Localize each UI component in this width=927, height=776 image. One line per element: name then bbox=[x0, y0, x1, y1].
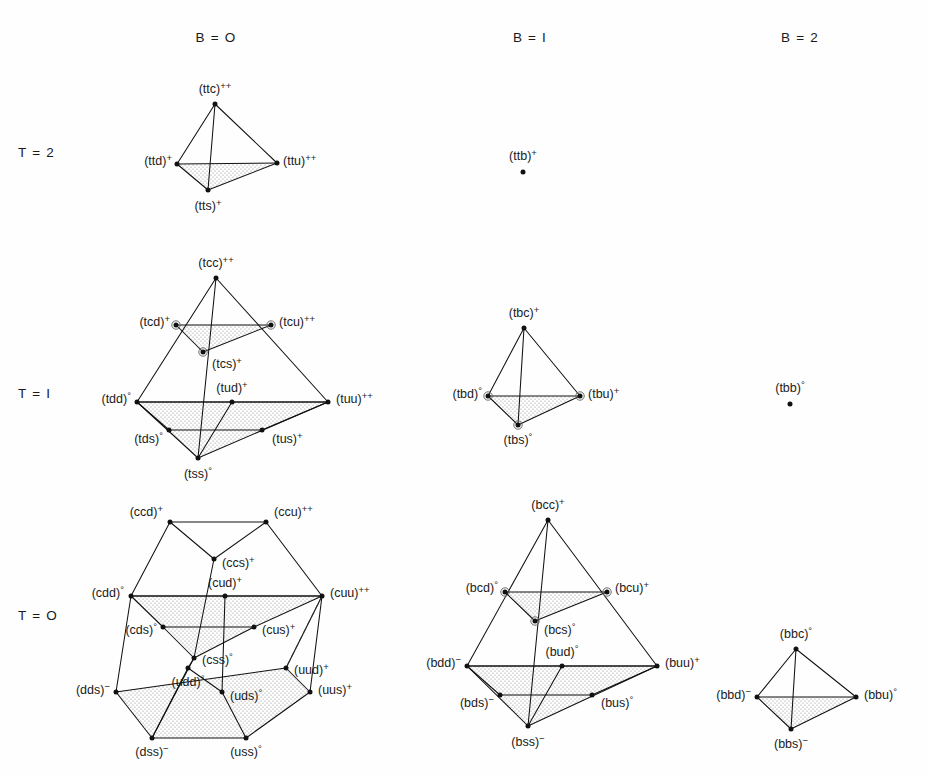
charge-superscript-tdd: ° bbox=[127, 390, 131, 401]
particle-name-uus: (uus) bbox=[318, 683, 346, 697]
vertex-tds bbox=[167, 428, 172, 433]
vertex-label-bbs: (bbs)− bbox=[774, 735, 808, 752]
particle-name-ccu: (ccu) bbox=[274, 505, 302, 519]
charge-superscript-bdd: − bbox=[455, 654, 461, 665]
vertex-ccu bbox=[264, 520, 269, 525]
particle-name-bud: (bud) bbox=[546, 645, 575, 659]
vertex-label-ccd: (ccd)+ bbox=[130, 503, 164, 520]
row-header-t0: T = O bbox=[18, 608, 58, 623]
particle-name-tdd: (tdd) bbox=[101, 392, 127, 406]
column-header-b2: B = 2 bbox=[781, 30, 819, 45]
charge-superscript-tus: + bbox=[297, 430, 303, 441]
charge-superscript-ttb: + bbox=[531, 147, 537, 158]
row-header-t2: T = 2 bbox=[18, 145, 55, 160]
vertex-label-tcd: (tcd)+ bbox=[139, 313, 170, 330]
vertex-tss bbox=[196, 456, 201, 461]
charge-superscript-bbc: ° bbox=[808, 625, 812, 636]
vertex-label-tcs: (tcs)+ bbox=[212, 355, 242, 372]
vertex-tdd bbox=[135, 400, 140, 405]
t2-b0-tetrahedron: (ttc)++(ttd)+(ttu)++(tts)+ bbox=[144, 80, 317, 214]
vertex-bds bbox=[498, 693, 503, 698]
charge-superscript-bds: − bbox=[488, 694, 494, 705]
charge-superscript-ccd: + bbox=[157, 503, 163, 514]
particle-name-cdd: (cdd) bbox=[92, 586, 120, 600]
edge-ccu-ccs bbox=[214, 522, 266, 559]
vertex-tts bbox=[206, 188, 211, 193]
edge-bbc-bbu bbox=[796, 649, 856, 697]
vertex-label-tss: (tss)° bbox=[184, 465, 212, 482]
vertex-uud bbox=[284, 666, 289, 671]
particle-name-tbd: (tbd) bbox=[452, 387, 478, 401]
edge-bbc-bbd bbox=[757, 649, 796, 697]
vertex-bss bbox=[526, 724, 531, 729]
vertex-tbc bbox=[522, 326, 527, 331]
vertex-uds bbox=[220, 690, 225, 695]
vertex-bud bbox=[560, 664, 565, 669]
vertex-label-bcd: (bcd)° bbox=[466, 579, 498, 596]
particle-name-cus: (cus) bbox=[262, 623, 290, 637]
vertex-bcd bbox=[503, 590, 508, 595]
particle-name-bdd: (bdd) bbox=[426, 656, 455, 670]
charge-superscript-dss: − bbox=[163, 743, 169, 754]
vertex-uss bbox=[244, 736, 249, 741]
vertex-bcc bbox=[546, 518, 551, 523]
shaded-face-0 bbox=[757, 697, 856, 729]
particle-name-ccs: (ccs) bbox=[222, 556, 249, 570]
vertex-bdd bbox=[465, 664, 470, 669]
charge-superscript-css: ° bbox=[229, 651, 233, 662]
vertex-label-bbc: (bbc)° bbox=[780, 625, 812, 642]
charge-superscript-cud: + bbox=[236, 574, 242, 585]
vertex-label-tts: (tts)+ bbox=[194, 197, 222, 214]
vertex-ttb bbox=[521, 170, 526, 175]
vertex-udd bbox=[186, 666, 191, 671]
charge-superscript-tcu: ++ bbox=[304, 313, 316, 324]
vertex-label-bbu: (bbu)° bbox=[864, 686, 897, 703]
vertex-label-tud: (tud)+ bbox=[216, 379, 248, 396]
particle-name-bcd: (bcd) bbox=[466, 581, 494, 595]
edge-cdd-dds bbox=[116, 596, 131, 692]
particle-name-tud: (tud) bbox=[216, 381, 242, 395]
headers-layer: B = OB = IB = 2T = 2T = IT = O bbox=[18, 30, 819, 623]
charge-superscript-uud: + bbox=[323, 661, 329, 672]
vertex-label-uss: (uss)° bbox=[230, 743, 262, 760]
vertex-ccd bbox=[168, 520, 173, 525]
particle-name-tts: (tts) bbox=[194, 199, 216, 213]
vertex-label-ccu: (ccu)++ bbox=[274, 503, 313, 520]
t2-b1-single-point: (ttb)+ bbox=[509, 147, 537, 175]
vertex-label-uds: (uds)° bbox=[230, 687, 262, 704]
vertex-label-bbd: (bbd)− bbox=[716, 686, 751, 703]
particle-name-ttb: (ttb) bbox=[509, 149, 531, 163]
vertex-label-cdd: (cdd)° bbox=[92, 584, 124, 601]
charge-superscript-bcu: + bbox=[643, 579, 649, 590]
vertex-tcd bbox=[174, 323, 179, 328]
particle-name-tcc: (tcc) bbox=[198, 256, 222, 270]
charge-superscript-udd: ° bbox=[201, 673, 205, 684]
charge-superscript-bud: ° bbox=[575, 643, 579, 654]
vertex-label-ttd: (ttd)+ bbox=[144, 152, 172, 169]
vertex-label-tds: (tds)° bbox=[134, 430, 163, 447]
vertex-ccs bbox=[212, 557, 217, 562]
charge-superscript-tts: + bbox=[216, 197, 222, 208]
particle-name-tcs: (tcs) bbox=[212, 357, 236, 371]
vertex-label-bus: (bus)° bbox=[601, 694, 633, 711]
multiplet-diagram-svg: B = OB = IB = 2T = 2T = IT = O (ttc)++(t… bbox=[0, 0, 927, 776]
vertex-label-tdd: (tdd)° bbox=[101, 390, 131, 407]
vertex-label-bcs: (bcs)° bbox=[544, 621, 576, 638]
t1-b1-tetrahedron: (tbc)+(tbd)°(tbu)+(tbs)° bbox=[452, 304, 619, 448]
charge-superscript-buu: + bbox=[694, 654, 700, 665]
particle-name-cuu: (cuu) bbox=[330, 586, 358, 600]
particle-name-udd: (udd) bbox=[172, 675, 201, 689]
particle-name-tbu: (tbu) bbox=[588, 387, 614, 401]
particle-name-bbd: (bbd) bbox=[716, 688, 745, 702]
particle-name-ttd: (ttd) bbox=[144, 154, 166, 168]
vertex-bbc bbox=[794, 647, 799, 652]
charge-superscript-uss: ° bbox=[258, 743, 262, 754]
edge-cuu-uus bbox=[310, 596, 322, 692]
vertex-dss bbox=[150, 736, 155, 741]
vertex-label-bdd: (bdd)− bbox=[426, 654, 461, 671]
vertex-cus bbox=[252, 625, 257, 630]
charge-superscript-tcd: + bbox=[164, 313, 170, 324]
vertex-label-ccs: (ccs)+ bbox=[222, 554, 255, 571]
particle-name-tss: (tss) bbox=[184, 467, 208, 481]
particle-name-bcs: (bcs) bbox=[544, 623, 572, 637]
